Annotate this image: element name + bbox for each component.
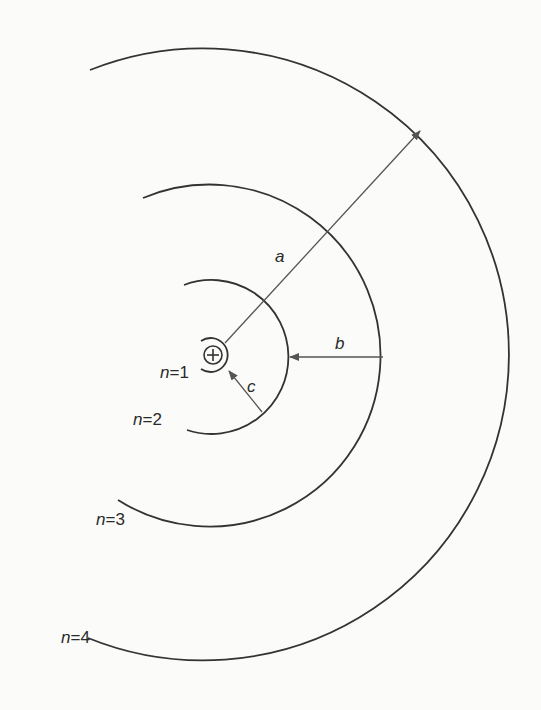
arrow-a-label: a bbox=[275, 247, 284, 266]
orbit-label-n: n bbox=[61, 628, 70, 647]
arrow-c bbox=[229, 371, 262, 412]
arrow-b-label: b bbox=[335, 334, 344, 353]
orbit-n3-label: n=3 bbox=[96, 510, 125, 529]
orbit-label-value: =3 bbox=[105, 510, 124, 529]
orbit-label-n: n bbox=[96, 510, 105, 529]
orbit-n4 bbox=[88, 48, 509, 660]
orbit-label-n: n bbox=[133, 410, 142, 429]
orbit-n1-label: n=1 bbox=[160, 363, 189, 382]
arrow-c-label: c bbox=[247, 377, 256, 396]
bohr-model-diagram: a b c n=1 n=2 n=3 n=4 bbox=[0, 0, 541, 710]
orbit-n3 bbox=[118, 185, 380, 527]
orbit-n2-label: n=2 bbox=[133, 410, 162, 429]
orbit-label-value: =2 bbox=[142, 410, 161, 429]
orbit-label-value: =4 bbox=[70, 628, 89, 647]
orbit-n2 bbox=[184, 280, 288, 434]
orbit-label-value: =1 bbox=[169, 363, 188, 382]
arrow-a bbox=[225, 131, 420, 343]
orbit-n4-label: n=4 bbox=[61, 628, 90, 647]
nucleus-icon bbox=[204, 346, 222, 364]
orbit-label-n: n bbox=[160, 363, 169, 382]
diagram-svg: a b c n=1 n=2 n=3 n=4 bbox=[0, 0, 541, 710]
